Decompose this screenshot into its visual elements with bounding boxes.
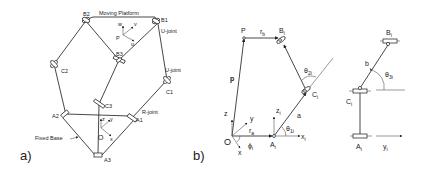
panel-a: w v u P z y x O Moving Platform B2 B1 U-… (20, 10, 181, 163)
joint-b1-icon (152, 17, 161, 24)
leg2-upper (54, 22, 85, 64)
panel-b-right: Bi b θ3i Ci Ai yi (346, 29, 405, 152)
label-theta1i: θ1i (286, 125, 294, 134)
node-c2-label: C2 (61, 68, 68, 74)
panel-a-label: a) (20, 148, 32, 163)
panel-b-left: b) P rb Bi p θ2i Ci a z y x O ra ϕi zi A… (193, 27, 333, 163)
node-b2-label: B2 (83, 11, 90, 17)
platform-axis-v: v (134, 21, 137, 27)
vector-p (232, 39, 244, 136)
label-p-point: P (241, 27, 246, 34)
ujoint-top-label: U-joint (161, 28, 177, 34)
theta3-arc-icon (372, 70, 384, 90)
label-bi: Bi (279, 27, 285, 36)
platform-axis-w: w (117, 21, 122, 27)
leg3-upper (99, 60, 119, 104)
platform-frame-icon (123, 26, 134, 41)
point-p-label: P (116, 35, 120, 41)
axis-y (232, 123, 247, 136)
leg3-lower (98, 104, 99, 153)
label-theta2i: θ2i (304, 67, 312, 76)
link-b (284, 45, 305, 88)
base-axis-x: x (110, 136, 113, 142)
base-axis-z: z (102, 116, 105, 122)
joint-c1-icon (162, 75, 171, 84)
joint-bi-right-icon (383, 39, 397, 43)
label-phi: ϕi (248, 142, 253, 151)
label-zi: zi (276, 107, 281, 116)
base-edge-13 (102, 120, 134, 155)
label-xi: xi (301, 133, 306, 142)
label-ai-right: Ai (356, 143, 362, 152)
label-ai: Ai (270, 141, 276, 150)
axis-x (232, 136, 240, 148)
label-y: y (250, 115, 254, 123)
joint-bi-icon (276, 35, 286, 44)
label-a: a (297, 112, 301, 119)
label-rb: rb (260, 28, 265, 37)
parallel-robot-diagram: w v u P z y x O Moving Platform B2 B1 U-… (0, 0, 425, 172)
base-axis-y: y (110, 116, 113, 122)
base-edge-12 (66, 114, 130, 116)
moving-platform-label: Moving Platform (99, 10, 139, 16)
label-b: b (365, 60, 369, 67)
joint-a3-icon (94, 153, 102, 157)
joint-c2-icon (49, 59, 58, 68)
rjoint-label: R-joint (142, 109, 158, 115)
label-x: x (238, 149, 242, 156)
node-c1-label: C1 (166, 89, 173, 95)
joint-a2-icon (61, 110, 69, 118)
label-z: z (224, 110, 228, 117)
node-a2-label: A2 (52, 113, 59, 119)
fixed-base-label: Fixed Base (35, 135, 63, 141)
label-ra: ra (249, 127, 254, 136)
node-b3-label: B3 (116, 51, 123, 57)
label-p-vector: p (230, 75, 234, 83)
joint-b2-icon (82, 16, 91, 23)
joint-ai-right-icon (353, 134, 367, 138)
fixed-base-pointer-icon (70, 137, 78, 139)
base-edge-23 (63, 118, 95, 155)
platform-axis-u: u (131, 41, 134, 47)
joint-ai-icon (273, 135, 276, 138)
phi-arc-icon (237, 136, 240, 142)
label-theta3i: θ3i (385, 71, 393, 80)
theta2-arc-icon (302, 76, 316, 80)
node-c3-label: C3 (105, 103, 112, 109)
label-bi-right: Bi (386, 29, 392, 38)
origin-o-label: O (98, 134, 104, 141)
label-ci-right: Ci (346, 98, 352, 107)
node-a3-label: A3 (104, 157, 111, 163)
label-yi: yi (383, 143, 388, 152)
label-o: O (224, 137, 231, 147)
node-b1-label: B1 (161, 17, 168, 23)
ujoint-mid-label: U-joint (165, 67, 181, 73)
point-p-icon (243, 37, 246, 40)
node-a1-label: A1 (136, 117, 143, 123)
panel-b-label: b) (193, 148, 205, 163)
label-ci: Ci (312, 91, 318, 100)
pin-ci-icon (358, 86, 361, 89)
